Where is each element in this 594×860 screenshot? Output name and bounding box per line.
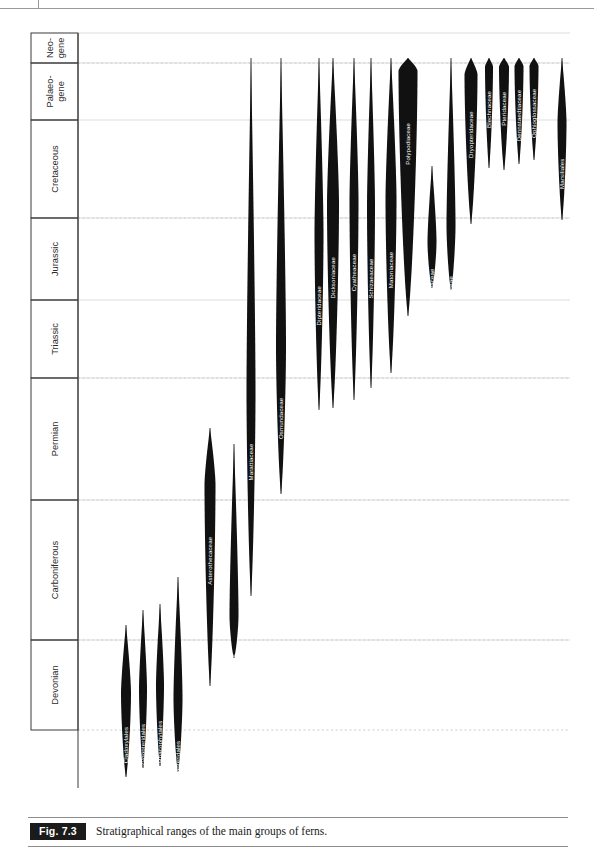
- page-top-rule-stub: [38, 0, 39, 9]
- stratigraphic-range-chart: Neo-genePalaeo-geneCretaceousJurassicTri…: [30, 28, 570, 803]
- taxon-label: Schizaeaceae: [367, 258, 374, 299]
- taxon-label: Urnatopteridales: [230, 654, 237, 701]
- taxon-range-marsiliales[interactable]: Marsiliales: [558, 58, 567, 220]
- taxon-label: Gleicheniaceae: [447, 276, 454, 321]
- taxon-range-urnatopteridales[interactable]: Urnatopteridales: [230, 444, 239, 701]
- taxon-range-marattiaceae[interactable]: Marattiaceae: [247, 58, 256, 596]
- taxon-label: Cyatheaceae: [350, 253, 357, 291]
- period-label: Palaeo-gene: [45, 75, 65, 107]
- taxon-label: Pteridaceae: [500, 91, 507, 126]
- figure-caption: Fig. 7.3 Stratigraphical ranges of the m…: [28, 817, 568, 847]
- period-label: Neo-gene: [45, 38, 65, 59]
- period-label: Carboniferous: [50, 540, 60, 599]
- taxon-label: Tempskyaceae: [428, 268, 435, 311]
- taxon-range-matoniaceae[interactable]: Matoniaceae: [386, 58, 397, 373]
- taxon-range-blechnaceae[interactable]: Blechnaceae: [485, 58, 493, 168]
- period-label: Permian: [50, 422, 60, 457]
- taxon-label: Dipteridaceae: [315, 286, 322, 326]
- taxon-range-dennstaedtiaceae[interactable]: Dennstaedtiaceae: [515, 58, 524, 164]
- taxon-label: Matoniaceae: [387, 251, 394, 288]
- taxon-label: Marattiaceae: [247, 443, 254, 480]
- taxon-range-polypodiaceae[interactable]: Polypodiaceae: [399, 58, 418, 316]
- taxon-label: Blechnaceae: [485, 91, 492, 128]
- taxon-label: Cladoxylales: [122, 727, 129, 763]
- period-label: Jurassic: [50, 242, 60, 276]
- taxon-range-stauropteridales[interactable]: Stauropteridales: [174, 577, 183, 788]
- taxon-label: Asterothecaceae: [206, 536, 213, 584]
- figure-page: Neo-genePalaeo-geneCretaceousJurassicTri…: [0, 0, 594, 860]
- chart-canvas: Neo-genePalaeo-geneCretaceousJurassicTri…: [30, 28, 570, 803]
- caption-top-rule: [28, 817, 568, 818]
- taxon-label: Ophioglossaceae: [530, 88, 537, 138]
- taxon-range-asterothecaceae[interactable]: Asterothecaceae: [205, 428, 216, 686]
- period-label: Devonian: [50, 665, 60, 704]
- taxon-range-ophioglossaceae[interactable]: Ophioglossaceae: [530, 58, 539, 160]
- taxon-range-schizaeaceae[interactable]: Schizaeaceae: [367, 58, 375, 388]
- taxon-label: Zygopteridales: [139, 724, 146, 766]
- gridlines-group: [78, 63, 570, 730]
- taxon-label: Dicksoniaceae: [329, 257, 336, 299]
- taxon-spindles-group: CladoxylalesZygopteridalesRhacophytalesS…: [121, 58, 570, 788]
- taxon-range-osmundaceae[interactable]: Osmundaceae: [276, 58, 286, 494]
- taxon-range-zygopteridales[interactable]: Zygopteridales: [139, 610, 147, 768]
- taxon-range-tempskyaceae[interactable]: Tempskyaceae: [428, 166, 437, 311]
- taxon-range-gleicheniaceae[interactable]: Gleicheniaceae: [447, 58, 456, 320]
- taxon-label: Stauropteridales: [174, 741, 181, 788]
- taxon-range-dicksoniaceae[interactable]: Dicksoniaceae: [327, 58, 339, 408]
- taxon-range-cladoxylales[interactable]: Cladoxylales: [121, 625, 131, 777]
- caption-bottom-rule: [28, 846, 568, 847]
- taxon-label: Polypodiaceae: [404, 122, 411, 164]
- taxon-label: Rhacophytales: [156, 721, 163, 763]
- taxon-label: Marsiliales: [558, 158, 565, 188]
- taxon-range-cyatheaceae[interactable]: Cyatheaceae: [350, 58, 359, 400]
- taxon-range-rhacophytales[interactable]: Rhacophytales: [156, 604, 164, 766]
- taxon-label: Osmundaceae: [277, 397, 284, 439]
- period-label: Cretaceous: [50, 145, 60, 193]
- taxon-range-dryopteridaceae[interactable]: Dryopteridaceae: [465, 58, 478, 224]
- page-top-rule: [0, 8, 594, 9]
- taxon-label: Dryopteridaceae: [467, 111, 474, 158]
- taxon-range-dipteridaceae[interactable]: Dipteridaceae: [315, 58, 324, 410]
- caption-text: Stratigraphical ranges of the main group…: [96, 823, 327, 840]
- period-label: Triassic: [50, 323, 60, 355]
- taxon-range-pteridaceae[interactable]: Pteridaceae: [499, 58, 509, 170]
- figure-number-badge: Fig. 7.3: [30, 823, 86, 840]
- taxon-label: Dennstaedtiaceae: [515, 89, 522, 141]
